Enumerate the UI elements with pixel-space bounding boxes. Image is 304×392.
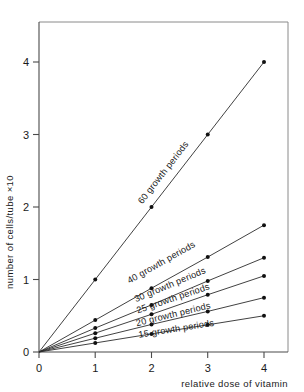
data-point: [262, 296, 266, 300]
y-tick-label-2: 2: [23, 201, 29, 213]
growth-periods-line-chart: 0 1 2 3 4 0 1 2 3 4 number of cells/tube…: [0, 0, 304, 392]
data-point: [262, 256, 266, 260]
y-tick-label-1: 1: [23, 274, 29, 286]
data-point: [93, 341, 97, 345]
data-point: [93, 331, 97, 335]
y-tick-label-3: 3: [23, 129, 29, 141]
y-tick-label-0: 0: [23, 346, 29, 358]
x-tick-label-1: 1: [92, 362, 98, 374]
data-point: [206, 133, 210, 137]
y-tick-label-4: 4: [23, 56, 29, 68]
data-point: [206, 293, 210, 297]
x-axis-title: relative dose of vitamin: [181, 378, 288, 389]
data-point: [93, 326, 97, 330]
data-point: [93, 336, 97, 340]
data-point: [262, 274, 266, 278]
data-point: [262, 223, 266, 227]
data-point: [93, 278, 97, 282]
x-tick-label-3: 3: [205, 362, 211, 374]
y-axis-title: number of cells/tube ×10: [4, 175, 15, 289]
data-point: [262, 314, 266, 318]
chart-canvas: 0 1 2 3 4 0 1 2 3 4 number of cells/tube…: [0, 0, 304, 392]
x-tick-label-0: 0: [36, 362, 42, 374]
data-point: [206, 255, 210, 259]
x-tick-label-4: 4: [261, 362, 267, 374]
data-point: [150, 205, 154, 209]
x-tick-label-2: 2: [148, 362, 154, 374]
data-point: [262, 60, 266, 64]
data-point: [93, 318, 97, 322]
